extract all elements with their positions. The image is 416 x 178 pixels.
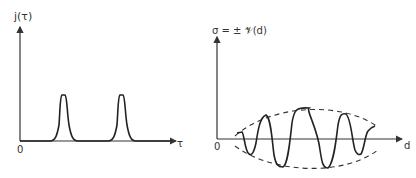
right-y-axis-label: σ = ± 𝒱(d): [212, 25, 267, 37]
left-y-axis-label: j(τ): [14, 10, 32, 23]
left-plot-axes: [20, 27, 176, 141]
right-origin-label: 0: [214, 141, 220, 152]
left-x-axis-label: τ: [177, 138, 183, 149]
left-plot-curve: [20, 95, 170, 141]
right-plot-wave: [237, 108, 375, 168]
diagram-canvas: [0, 0, 416, 178]
left-origin-label: 0: [17, 144, 23, 155]
right-plot-axes: [217, 37, 402, 139]
right-x-axis-label: d: [404, 140, 410, 151]
